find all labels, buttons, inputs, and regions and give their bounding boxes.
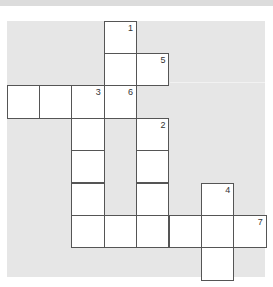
clue-number: 6 — [128, 88, 133, 97]
crossword-cell[interactable] — [39, 85, 72, 118]
clue-number: 3 — [96, 88, 101, 97]
crossword-cell[interactable] — [201, 247, 234, 280]
crossword-cell[interactable] — [136, 215, 169, 248]
crossword-cell[interactable] — [136, 183, 169, 216]
clue-number: 1 — [128, 24, 133, 33]
crossword-cell[interactable]: 5 — [136, 53, 169, 86]
crossword-cell[interactable] — [71, 183, 104, 216]
crossword-cell[interactable] — [169, 215, 202, 248]
crossword-cell[interactable]: 4 — [201, 183, 234, 216]
crossword-cell[interactable] — [71, 118, 104, 151]
panel-divider — [170, 82, 265, 83]
crossword-cell[interactable]: 6 — [104, 85, 137, 118]
crossword-cell[interactable] — [104, 53, 137, 86]
crossword-cell[interactable] — [71, 150, 104, 183]
crossword-cell[interactable] — [201, 215, 234, 248]
clue-number: 4 — [225, 186, 230, 195]
crossword-cell[interactable]: 2 — [136, 118, 169, 151]
crossword-cell[interactable] — [7, 85, 40, 118]
crossword-cell[interactable]: 7 — [233, 215, 266, 248]
crossword-cell[interactable] — [104, 215, 137, 248]
top-stripe — [0, 0, 273, 6]
clue-number: 2 — [160, 121, 165, 130]
crossword-cell[interactable]: 1 — [104, 21, 137, 54]
crossword-cell[interactable] — [71, 215, 104, 248]
clue-number: 5 — [160, 56, 165, 65]
clue-number: 7 — [258, 218, 263, 227]
crossword-cell[interactable]: 3 — [71, 85, 104, 118]
crossword-cell[interactable] — [136, 150, 169, 183]
